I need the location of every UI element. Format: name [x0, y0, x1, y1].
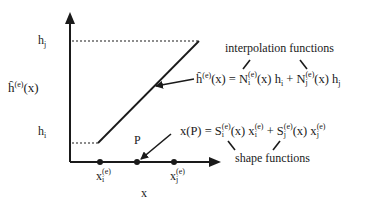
interpolant-pointer-arrow: [156, 79, 194, 86]
x-axis: [70, 157, 221, 167]
y-axis: [65, 12, 75, 162]
interpolation-functions-caption: interpolation functions: [225, 42, 334, 54]
shape-tick-left: [228, 141, 235, 150]
shape-functions-caption: shape functions: [235, 152, 310, 164]
point-p-pointer-arrow: [141, 134, 171, 159]
node-xi-dot: [97, 159, 103, 165]
hj-label: hj: [38, 34, 46, 46]
y-axis-arrow-icon: [65, 12, 75, 24]
hi-label: hi: [38, 125, 46, 137]
xj-label: x(e)j: [170, 169, 185, 185]
interpolation-equation: ĥ(e)(x) = N(e)i(x) hi + N(e)j(x) hj: [196, 72, 341, 88]
interp-tick-left: [243, 60, 250, 69]
xi-label: x(e)i: [96, 169, 111, 185]
x-axis-arrow-icon: [209, 157, 221, 167]
shape-equation: x(P) = S(e)i(x) x(e)i + S(e)j(x) x(e)j: [180, 124, 326, 140]
shape-tick-right: [273, 141, 280, 150]
y-axis-label: ĥ(e)(x): [8, 81, 39, 94]
point-p-dot: [134, 159, 140, 165]
x-axis-label: x: [141, 187, 147, 199]
fem-interpolation-diagram: hj hi ĥ(e)(x) P x(e)i x(e)j x interpolat…: [0, 0, 369, 205]
interp-tick-right: [300, 60, 307, 69]
point-p-label: P: [134, 134, 141, 146]
node-xj-dot: [171, 159, 177, 165]
